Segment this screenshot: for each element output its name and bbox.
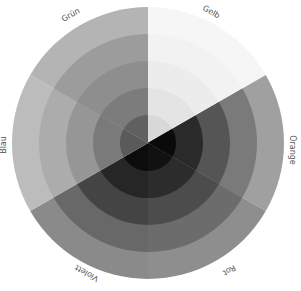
color-wheel: GelbOrangeRotViolettBlauGrün xyxy=(0,0,301,291)
label-blau: Blau xyxy=(0,136,8,154)
label-gelb: Gelb xyxy=(201,3,221,20)
wheel-segments xyxy=(12,7,284,279)
label-rot: Rot xyxy=(221,263,237,277)
label-orange: Orange xyxy=(288,135,297,165)
label-grün: Grün xyxy=(60,6,82,24)
